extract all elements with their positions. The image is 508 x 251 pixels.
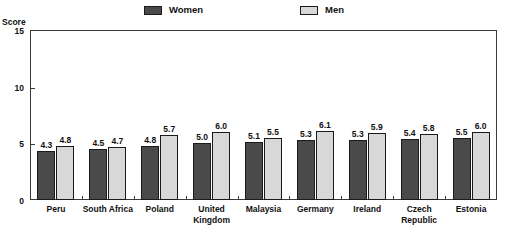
x-axis-label: Poland xyxy=(134,204,186,215)
x-axis-label: Germany xyxy=(289,204,341,215)
x-axis-group-separator xyxy=(341,196,342,200)
x-axis-group-separator xyxy=(445,196,446,200)
bar-value-label: 5.9 xyxy=(371,122,383,132)
bars-layer: 4.34.84.54.74.85.75.06.05.15.55.36.15.35… xyxy=(30,30,497,200)
x-axis-labels: PeruSouth AfricaPolandUnitedKingdomMalay… xyxy=(30,204,497,250)
bar-group: 5.15.5 xyxy=(238,30,290,200)
bar-men: 4.7 xyxy=(108,147,126,200)
bar-value-label: 5.8 xyxy=(423,123,435,133)
bar-women: 5.3 xyxy=(297,140,315,200)
legend-entry-women: Women xyxy=(144,2,203,18)
bar-value-label: 4.7 xyxy=(111,136,123,146)
bar-value-label: 5.3 xyxy=(352,129,364,139)
x-axis-group-separator xyxy=(186,196,187,200)
x-axis-group-separator xyxy=(238,196,239,200)
bar-group: 4.34.8 xyxy=(30,30,82,200)
x-axis-label: Peru xyxy=(30,204,82,215)
bar-value-label: 5.1 xyxy=(248,131,260,141)
bar-men: 5.5 xyxy=(264,138,282,200)
legend-swatch-women xyxy=(144,6,162,15)
y-axis-tick-label: 15 xyxy=(15,26,31,36)
legend-swatch-men xyxy=(300,6,318,15)
bar-women: 5.4 xyxy=(401,139,419,200)
bar-group: 5.06.0 xyxy=(186,30,238,200)
bar-value-label: 5.7 xyxy=(163,124,175,134)
bar-group: 5.56.0 xyxy=(445,30,497,200)
chart-legend: Women Men xyxy=(0,2,508,20)
bar-men: 6.0 xyxy=(472,132,490,200)
legend-entry-men: Men xyxy=(300,2,344,18)
x-axis-label: UnitedKingdom xyxy=(186,204,238,226)
bar-value-label: 4.5 xyxy=(92,138,104,148)
bar-men: 5.7 xyxy=(160,135,178,200)
bar-women: 5.5 xyxy=(453,138,471,200)
legend-label-men: Men xyxy=(325,5,344,15)
x-axis-group-separator xyxy=(393,196,394,200)
bar-value-label: 5.4 xyxy=(404,128,416,138)
grouped-bar-chart: Women Men Score 051015 4.34.84.54.74.85.… xyxy=(0,0,508,251)
bar-value-label: 5.3 xyxy=(300,129,312,139)
bar-men: 5.9 xyxy=(368,133,386,200)
bar-value-label: 6.1 xyxy=(319,120,331,130)
bar-value-label: 5.5 xyxy=(456,127,468,137)
x-axis-label: South Africa xyxy=(82,204,134,215)
bar-men: 6.0 xyxy=(212,132,230,200)
y-axis-tick-label: 10 xyxy=(15,83,31,93)
bar-value-label: 4.8 xyxy=(144,135,156,145)
bar-group: 5.45.8 xyxy=(393,30,445,200)
x-axis-group-separator xyxy=(289,196,290,200)
bar-women: 4.8 xyxy=(141,146,159,200)
bar-group: 4.85.7 xyxy=(134,30,186,200)
bar-women: 4.3 xyxy=(37,151,55,200)
bar-men: 4.8 xyxy=(56,146,74,200)
bar-value-label: 4.8 xyxy=(60,135,72,145)
bar-value-label: 6.0 xyxy=(215,121,227,131)
bar-value-label: 5.5 xyxy=(267,127,279,137)
x-axis-label: Ireland xyxy=(341,204,393,215)
bar-group: 5.35.9 xyxy=(341,30,393,200)
x-axis-group-separator xyxy=(82,196,83,200)
bar-men: 6.1 xyxy=(316,131,334,200)
bar-women: 4.5 xyxy=(89,149,107,200)
bar-women: 5.0 xyxy=(193,143,211,200)
bar-men: 5.8 xyxy=(420,134,438,200)
x-axis-label: Estonia xyxy=(445,204,497,215)
x-axis-label: Malaysia xyxy=(238,204,290,215)
bar-value-label: 5.0 xyxy=(196,132,208,142)
bar-women: 5.3 xyxy=(349,140,367,200)
bar-value-label: 4.3 xyxy=(41,140,53,150)
x-axis-label: CzechRepublic xyxy=(393,204,445,226)
bar-women: 5.1 xyxy=(245,142,263,200)
bar-group: 4.54.7 xyxy=(82,30,134,200)
legend-label-women: Women xyxy=(169,5,203,15)
bar-group: 5.36.1 xyxy=(289,30,341,200)
x-axis-group-separator xyxy=(134,196,135,200)
bar-value-label: 6.0 xyxy=(475,121,487,131)
